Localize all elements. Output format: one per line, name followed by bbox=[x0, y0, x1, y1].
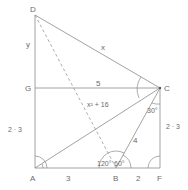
point-label-A: A bbox=[30, 174, 36, 183]
angle-label-60: 60° bbox=[114, 160, 125, 167]
segment-BC bbox=[116, 88, 160, 168]
point-label-B: B bbox=[113, 174, 118, 183]
label-DG-y: y bbox=[26, 40, 30, 49]
geometry-diagram: D G C A B F y x 5 x² + 16 4 2 · 3 2 · 3 … bbox=[0, 0, 188, 190]
angle-arc-A bbox=[35, 156, 47, 168]
label-GC-5: 5 bbox=[96, 79, 101, 88]
point-label-C: C bbox=[164, 84, 170, 93]
label-AB-3: 3 bbox=[66, 174, 71, 183]
label-BF-2: 2 bbox=[136, 174, 141, 183]
point-C-dot bbox=[159, 87, 161, 89]
angle-arc-A-inner bbox=[42, 164, 43, 168]
label-DB: x² + 16 bbox=[87, 101, 109, 108]
point-label-F: F bbox=[157, 174, 162, 183]
label-DC-x: x bbox=[101, 43, 105, 52]
angle-arc-C-large bbox=[137, 77, 141, 98]
angle-label-30: 30° bbox=[147, 107, 158, 114]
label-BC-4: 4 bbox=[133, 136, 138, 145]
angle-arc-C-30 bbox=[152, 103, 160, 104]
point-label-G: G bbox=[25, 84, 31, 93]
angle-label-120: 120° bbox=[97, 160, 112, 167]
segment-DC bbox=[35, 15, 160, 88]
segment-DB-dashed bbox=[35, 15, 116, 168]
label-CF: 2 · 3 bbox=[166, 123, 180, 130]
angle-arc-F bbox=[148, 156, 160, 168]
label-AG: 2 · 3 bbox=[8, 126, 22, 133]
point-label-D: D bbox=[30, 5, 36, 14]
segment-AC bbox=[35, 88, 160, 168]
